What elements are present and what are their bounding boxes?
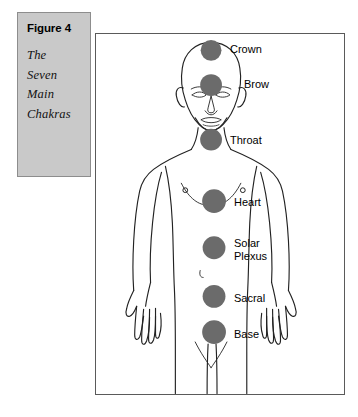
inner-thigh-left [207, 344, 208, 394]
chakra-circles-group [200, 40, 226, 344]
figure-caption-line-2: Seven [27, 66, 90, 86]
figure-caption-line-1: The [27, 46, 90, 66]
figure-caption-title: Figure 4 [27, 22, 90, 35]
navel [200, 271, 203, 278]
right-arm-inner [261, 172, 272, 282]
chakra-label-crown: Crown [230, 43, 262, 56]
figure-frame: Crown Brow Throat Heart Solar Plexus Sac… [95, 33, 345, 395]
chakra-circle-base [202, 320, 226, 344]
chakra-circle-heart [202, 189, 226, 213]
upper-lip [201, 118, 221, 120]
inner-thigh-right [216, 344, 217, 394]
human-figure-illustration [96, 34, 344, 394]
right-shoulder-arm-outer [231, 150, 289, 291]
left-shoulder-arm-outer [133, 150, 191, 291]
chakra-circle-throat [200, 129, 222, 151]
neck-left [191, 128, 198, 150]
chakra-label-sacral: Sacral [234, 292, 265, 305]
chakra-label-brow: Brow [244, 78, 269, 91]
left-arm-inner [150, 172, 161, 282]
figure-caption-line-3: Main [27, 85, 90, 105]
right-hand-thumb [285, 290, 296, 316]
right-nipple [240, 188, 245, 193]
left-groin-line [195, 342, 211, 368]
torso-left-side [165, 166, 175, 393]
left-finger-4 [156, 308, 162, 338]
chakra-circle-brow [200, 74, 222, 96]
right-groin-line [211, 342, 227, 368]
chakra-label-throat: Throat [230, 134, 262, 147]
lower-lip [201, 120, 221, 123]
chakra-circle-solar-plexus [203, 236, 226, 259]
chin-crease [203, 125, 219, 126]
right-finger-4 [261, 308, 267, 338]
left-hand-thumb [126, 290, 137, 316]
figure-caption-line-4: Chakras [27, 105, 90, 125]
chakra-label-heart: Heart [234, 196, 261, 209]
chakra-circle-sacral [203, 285, 226, 308]
chakra-circle-crown [201, 40, 222, 61]
left-hand-wrist-inner [146, 282, 151, 306]
chakra-label-solar-plexus: Solar Plexus [234, 237, 267, 262]
chakra-label-base: Base [234, 328, 259, 341]
right-hand-wrist-inner [272, 282, 277, 306]
figure-caption-box: Figure 4 The Seven Main Chakras [17, 12, 91, 177]
nose [208, 96, 215, 113]
